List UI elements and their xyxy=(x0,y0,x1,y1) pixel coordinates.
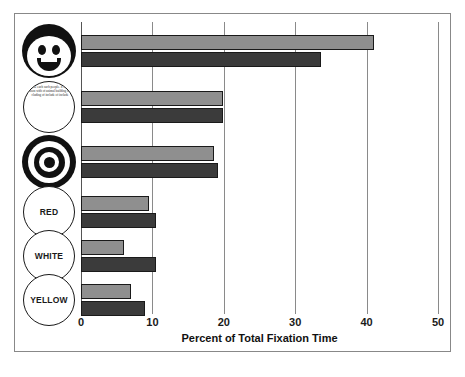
x-tick-label-10: 10 xyxy=(146,316,158,328)
category-icon-white: WHITE xyxy=(21,234,77,278)
bar-dark-bar-red xyxy=(81,213,156,228)
bullseye-ring-2 xyxy=(28,141,70,183)
face-eye-right xyxy=(52,45,60,55)
bar-light-bar-yellow xyxy=(81,284,131,299)
bullseye-center xyxy=(44,157,55,168)
gridline-50 xyxy=(438,22,439,314)
category-icon-face xyxy=(21,22,77,80)
bar-light-bar-bullseye-target xyxy=(81,146,214,161)
x-axis-title: Percent of Total Fixation Time xyxy=(81,332,438,344)
bar-dark-bar-yellow xyxy=(81,301,145,316)
category-icon-bullseye xyxy=(21,134,77,190)
bar-dark-bar-bullseye-target xyxy=(81,163,218,178)
bullseye-ring-3 xyxy=(34,147,65,178)
bar-group xyxy=(81,146,438,178)
face-teeth xyxy=(41,58,57,62)
bar-light-bar-face-drawing xyxy=(81,35,374,50)
bar-light-bar-red xyxy=(81,196,149,211)
plot-area xyxy=(81,22,438,303)
face-icon xyxy=(22,24,76,78)
x-tick-label-0: 0 xyxy=(78,316,84,328)
bar-dark-bar-white xyxy=(81,257,156,272)
category-icon-column: and the each such people. if that, he re… xyxy=(19,22,79,314)
bar-group xyxy=(81,91,438,123)
bar-light-bar-text-paragraph xyxy=(81,91,223,106)
x-tick-label-20: 20 xyxy=(218,316,230,328)
bullseye-icon xyxy=(22,135,76,189)
category-icon-red: RED xyxy=(21,190,77,234)
bullseye-ring-4 xyxy=(39,152,59,172)
category-icon-yellow: YELLOW xyxy=(21,278,77,322)
x-tick-label-40: 40 xyxy=(360,316,372,328)
chart-figure: and the each such people. if that, he re… xyxy=(14,13,451,352)
face-eye-left xyxy=(38,45,46,55)
bar-group xyxy=(81,284,438,316)
category-icon-text: and the each such people. if that, he re… xyxy=(21,80,77,134)
bar-light-bar-white xyxy=(81,240,124,255)
bar-group xyxy=(81,196,438,228)
bar-dark-bar-face-drawing xyxy=(81,52,321,67)
text-paragraph-icon: and the each such people. if that, he re… xyxy=(23,81,75,133)
bar-dark-bar-text-paragraph xyxy=(81,108,223,123)
text-paragraph-lines: and the each such people. if that, he re… xyxy=(27,85,73,131)
bar-group xyxy=(81,240,438,272)
yellow-circle-label: YELLOW xyxy=(23,274,75,326)
x-tick-label-50: 50 xyxy=(432,316,444,328)
x-tick-label-30: 30 xyxy=(289,316,301,328)
bar-group xyxy=(81,35,438,67)
